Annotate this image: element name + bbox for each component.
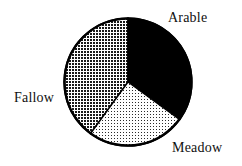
pie-label-arable: Arable bbox=[168, 10, 207, 26]
pie-label-fallow: Fallow bbox=[14, 90, 54, 106]
pie-label-meadow: Meadow bbox=[172, 140, 222, 156]
pie-chart-figure: Arable Fallow Meadow bbox=[0, 0, 242, 166]
